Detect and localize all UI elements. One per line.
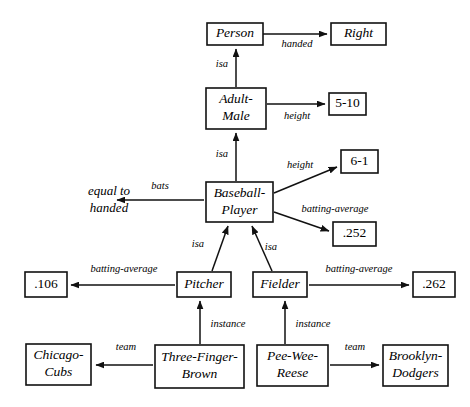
node-avg-252[interactable]: .252: [333, 222, 376, 246]
edge-player-isa-adultmale: isa: [216, 133, 236, 181]
node-label-line: Brown: [182, 366, 218, 381]
edge-label: team: [345, 341, 366, 352]
edge-pitcher-isa-player: isa: [192, 226, 228, 271]
edge-line: [212, 226, 228, 271]
node-label-line: .106: [34, 276, 58, 291]
edge-label: batting-average: [90, 263, 157, 274]
semantic-network-diagram: handedisaheightisaheightbatsbatting-aver…: [0, 0, 470, 407]
edge-label: instance: [211, 318, 246, 329]
node-height-6-1[interactable]: 6-1: [341, 150, 378, 173]
node-label-line: Three-Finger-: [161, 349, 238, 364]
edge-pitcher-battingavg-106: batting-average: [71, 263, 175, 285]
node-label-line: Person: [215, 25, 254, 40]
edge-label: height: [284, 110, 311, 121]
edge-label: instance: [296, 318, 331, 329]
node-label-line: .262: [422, 276, 446, 291]
node-label-line: .252: [343, 225, 367, 240]
edge-label: batting-average: [325, 263, 392, 274]
node-label-line: 6-1: [351, 153, 369, 168]
node-label-line: Male: [221, 108, 250, 123]
edge-label: batting-average: [301, 203, 368, 214]
node-label-line: Dodgers: [391, 365, 439, 380]
edge-label: isa: [216, 58, 228, 69]
edge-brown-team-cubs: team: [96, 341, 153, 365]
nodes-layer: PersonRightAdult-Male5-10Baseball-Player…: [25, 23, 455, 388]
node-chicago-cubs[interactable]: Chicago-Cubs: [26, 344, 91, 385]
edge-label: bats: [151, 180, 169, 191]
edge-label: height: [287, 159, 314, 170]
node-label-line: Brooklyn-: [389, 348, 443, 363]
edge-label: handed: [282, 38, 314, 49]
node-pee-wee-reese[interactable]: Pee-Wee-Reese: [257, 345, 328, 386]
node-label-line: Chicago-: [33, 347, 84, 362]
edge-line: [274, 212, 329, 231]
edge-label: team: [116, 341, 137, 352]
edge-person-handed-right: handed: [263, 34, 327, 49]
node-label-line: Cubs: [45, 364, 73, 379]
node-three-finger[interactable]: Three-Finger-Brown: [155, 345, 244, 388]
node-label-line: equal to: [88, 183, 131, 198]
edge-line: [274, 167, 337, 193]
node-baseball-player[interactable]: Baseball-Player: [206, 182, 273, 222]
edge-player-height-61: height: [274, 159, 337, 193]
node-label-line: Fielder: [259, 276, 300, 291]
edge-fielder-battingavg-262: batting-average: [309, 263, 409, 285]
edge-label: isa: [216, 148, 228, 159]
node-brooklyn-dodgers[interactable]: Brooklyn-Dodgers: [383, 345, 448, 386]
edge-label: isa: [265, 241, 277, 252]
node-avg-106[interactable]: .106: [25, 272, 67, 297]
edge-adultmale-height-510: height: [267, 104, 325, 121]
node-avg-262[interactable]: .262: [413, 272, 455, 297]
node-pitcher[interactable]: Pitcher: [177, 272, 231, 297]
node-label-line: Adult-: [218, 91, 253, 106]
edge-brown-instance-pitcher: instance: [200, 301, 246, 344]
edge-reese-instance-fielder: instance: [285, 301, 331, 344]
node-fielder[interactable]: Fielder: [253, 272, 307, 297]
node-person[interactable]: Person: [207, 23, 263, 45]
node-label-line: Pitcher: [183, 276, 224, 291]
node-label-line: Reese: [276, 365, 308, 380]
node-label-line: Player: [221, 202, 259, 217]
node-label-line: handed: [90, 200, 129, 215]
node-height-5-10[interactable]: 5-10: [329, 93, 366, 115]
edge-adultmale-isa-person: isa: [216, 49, 236, 87]
edge-reese-team-dodgers: team: [330, 341, 379, 365]
edge-fielder-isa-player: isa: [252, 226, 277, 271]
node-label-line: Baseball-: [214, 185, 266, 200]
node-label-line: 5-10: [335, 95, 360, 110]
node-right[interactable]: Right: [331, 23, 386, 45]
edge-label: isa: [192, 238, 204, 249]
node-label-line: Right: [343, 25, 374, 40]
node-label-line: Pee-Wee-: [266, 348, 319, 363]
node-adult-male[interactable]: Adult-Male: [206, 88, 266, 129]
diagram-canvas: handedisaheightisaheightbatsbatting-aver…: [0, 0, 470, 407]
